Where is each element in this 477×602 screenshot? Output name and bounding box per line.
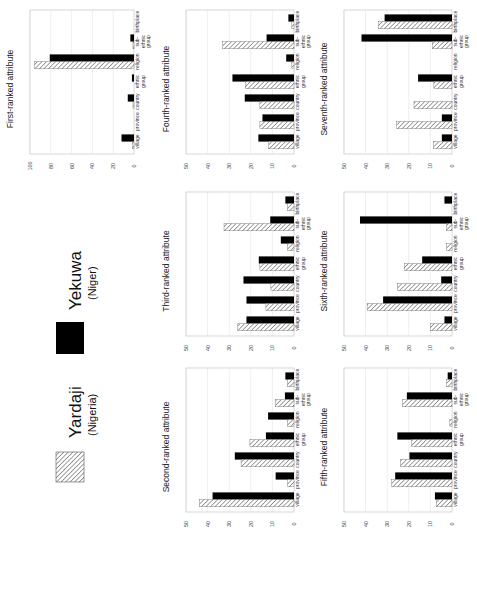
axis-tick-label: 20 (248, 521, 254, 527)
bar-yardaji (397, 284, 452, 291)
bar-yekuwa (286, 54, 294, 61)
bar-yekuwa (259, 256, 294, 263)
bar-yardaji (430, 324, 452, 331)
category-label: birthplace (294, 193, 300, 215)
bar-yekuwa (435, 492, 452, 499)
bar-yardaji (276, 400, 294, 407)
axis-tick-label: 40 (89, 163, 95, 169)
category-label: group (305, 393, 311, 406)
bar-yardaji (223, 42, 294, 49)
bar-yekuwa (232, 74, 294, 81)
legend-swatch-hatched-icon (56, 452, 84, 482)
bar-yardaji (414, 102, 452, 109)
chart-first-ranked: First-ranked attribute020406080100villag… (4, 4, 156, 176)
bar-yekuwa (243, 276, 294, 283)
legend-label-yardaji: Yardaji (66, 386, 85, 438)
category-label: religion (452, 53, 458, 69)
category-label: group (463, 393, 469, 406)
axis-tick-label: 40 (205, 521, 211, 527)
bar-yekuwa (285, 392, 294, 399)
category-label: village (134, 134, 140, 148)
category-label: birthplace (294, 11, 300, 33)
bar-yekuwa (385, 14, 452, 21)
bar-yekuwa (422, 256, 452, 263)
category-label: village (452, 316, 458, 330)
bar-yardaji (392, 480, 452, 487)
category-label: birthplace (452, 11, 458, 33)
bar-yekuwa (276, 472, 294, 479)
legend-sublabel-niger: (Niger) (86, 266, 98, 300)
category-label: village (452, 492, 458, 506)
axis-tick-label: 40 (205, 163, 211, 169)
bar-yekuwa (441, 276, 452, 283)
chart-title: Second-ranked attribute (161, 401, 171, 492)
category-label: group (305, 35, 311, 48)
category-label: province (134, 112, 140, 131)
chart-sixth-ranked: Sixth-ranked attribute01020304050village… (318, 186, 474, 358)
category-label: province (452, 294, 458, 313)
chart-title: Fourth-ranked attribute (161, 46, 171, 133)
axis-tick-label: 10 (269, 163, 275, 169)
axis-tick-label: 50 (341, 521, 347, 527)
legend-item-yekuwa: Yekuwa (Niger) (56, 251, 98, 354)
bar-yekuwa (281, 236, 294, 243)
chart-seventh-ranked: Seventh-ranked attribute01020304050villa… (318, 4, 474, 176)
bar-yardaji (401, 460, 452, 467)
bar-yardaji (245, 82, 294, 89)
axis-tick-label: 20 (406, 163, 412, 169)
category-label: group (300, 75, 306, 88)
category-label: birthplace (452, 193, 458, 215)
bar-yardaji (260, 122, 294, 129)
bar-yardaji (266, 304, 294, 311)
bar-yardaji (224, 224, 294, 231)
axis-tick-label: 30 (384, 521, 390, 527)
category-label: province (294, 470, 300, 489)
category-label: group (463, 35, 469, 48)
legend-swatch-solid-icon (56, 322, 84, 354)
bar-yardaji (434, 82, 452, 89)
category-label: country (294, 451, 300, 468)
bar-yekuwa (285, 372, 294, 379)
axis-tick-label: 0 (291, 164, 297, 167)
category-label: country (452, 93, 458, 110)
axis-tick-label: 20 (406, 345, 412, 351)
category-label: group (305, 217, 311, 230)
axis-tick-label: 30 (384, 345, 390, 351)
category-label: country (452, 451, 458, 468)
axis-tick-label: 100 (27, 161, 33, 170)
bar-yardaji (403, 400, 452, 407)
legend-item-yardaji: Yardaji (Nigeria) (56, 386, 98, 482)
axis-tick-label: 0 (131, 164, 137, 167)
bar-yardaji (199, 500, 294, 507)
axis-tick-label: 20 (110, 163, 116, 169)
category-label: birthplace (134, 11, 140, 33)
axis-tick-label: 40 (205, 345, 211, 351)
bar-yardaji (434, 142, 452, 149)
category-label: group (463, 217, 469, 230)
category-label: group (300, 433, 306, 446)
category-label: birthplace (452, 369, 458, 391)
axis-tick-label: 10 (427, 345, 433, 351)
category-label: religion (294, 411, 300, 427)
category-label: country (134, 93, 140, 110)
category-label: group (300, 257, 306, 270)
axis-tick-label: 30 (226, 521, 232, 527)
category-label: country (294, 93, 300, 110)
axis-tick-label: 0 (291, 522, 297, 525)
category-label: province (294, 294, 300, 313)
category-label: village (294, 316, 300, 330)
category-label: province (294, 112, 300, 131)
bar-yekuwa (122, 134, 134, 141)
bar-yekuwa (361, 34, 452, 41)
category-label: village (294, 134, 300, 148)
legend-label-yekuwa: Yekuwa (66, 251, 85, 310)
bar-yekuwa (270, 216, 294, 223)
category-label: group (458, 75, 464, 88)
axis-tick-label: 50 (183, 163, 189, 169)
chart-fifth-ranked: Fifth-ranked attribute01020304050village… (318, 362, 474, 534)
category-label: village (452, 134, 458, 148)
bar-yekuwa (407, 392, 452, 399)
category-label: birthplace (294, 369, 300, 391)
chart-second-ranked: Second-ranked attribute01020304050villag… (160, 362, 316, 534)
chart-fourth-ranked: Fourth-ranked attribute01020304050villag… (160, 4, 316, 176)
